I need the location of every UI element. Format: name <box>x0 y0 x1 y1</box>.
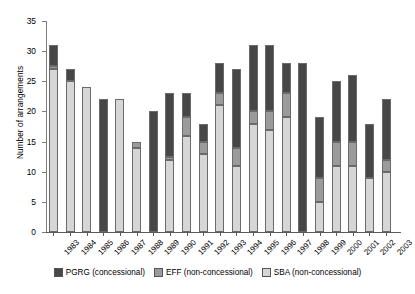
bar-segment-pgrg <box>49 45 58 66</box>
y-tick: 0 <box>42 232 46 233</box>
bar-segment-sba <box>165 160 174 232</box>
bar-segment-eff <box>182 117 191 135</box>
bar-segment-pgrg <box>66 69 75 81</box>
bar-segment-eff <box>215 93 224 105</box>
bar-segment-eff <box>232 148 241 166</box>
y-axis-title: Number of arrangements <box>16 38 25 188</box>
bar-segment-eff <box>249 111 258 123</box>
legend-item-pgrg[interactable]: PGRG (concessional) <box>54 268 145 277</box>
legend-swatch-eff <box>154 268 163 277</box>
bar-1988[interactable] <box>132 142 141 232</box>
bar-1991[interactable] <box>182 93 191 232</box>
x-tick <box>153 232 154 236</box>
bar-2001[interactable] <box>348 75 357 232</box>
bar-segment-sba <box>332 166 341 232</box>
bar-segment-sba <box>232 166 241 232</box>
legend-item-sba[interactable]: SBA (non-concessional) <box>262 268 361 277</box>
bar-segment-sba <box>115 99 124 232</box>
bar-1993[interactable] <box>215 63 224 232</box>
bar-segment-sba <box>315 202 324 232</box>
x-axis-line <box>46 232 401 233</box>
bar-1990[interactable] <box>165 93 174 232</box>
bar-1994[interactable] <box>232 69 241 232</box>
bar-segment-sba <box>215 105 224 232</box>
x-tick <box>187 232 188 236</box>
legend-swatch-pgrg <box>54 268 63 277</box>
legend-item-eff[interactable]: EFF (non-concessional) <box>154 268 253 277</box>
bar-1995[interactable] <box>249 45 258 232</box>
bar-segment-pgrg <box>282 63 291 93</box>
bar-1999[interactable] <box>315 117 324 232</box>
bar-segment-sba <box>49 69 58 232</box>
bar-segment-sba <box>265 130 274 232</box>
x-tick-label-1995: 1995 <box>262 238 281 257</box>
x-tick-label-2000: 2000 <box>345 238 364 257</box>
legend-label-pgrg: PGRG (concessional) <box>66 268 145 277</box>
bar-1983[interactable] <box>49 45 58 232</box>
bar-1985[interactable] <box>82 87 91 232</box>
y-tick: 5 <box>42 202 46 203</box>
bar-1989[interactable] <box>149 111 158 232</box>
x-tick <box>386 232 387 236</box>
bar-1996[interactable] <box>265 45 274 232</box>
x-tick-label-1989: 1989 <box>162 238 181 257</box>
bar-1984[interactable] <box>66 69 75 232</box>
y-tick-label: 20 <box>27 107 36 115</box>
y-tick: 10 <box>42 172 46 173</box>
legend-label-sba: SBA (non-concessional) <box>274 268 361 277</box>
y-tick-label: 15 <box>27 138 36 146</box>
bar-1998[interactable] <box>298 63 307 232</box>
x-tick-label-1985: 1985 <box>96 238 115 257</box>
bar-1992[interactable] <box>199 124 208 232</box>
y-tick-label: 30 <box>27 47 36 55</box>
x-tick-label-1999: 1999 <box>329 238 348 257</box>
bar-segment-sba <box>382 172 391 232</box>
y-tick: 20 <box>42 111 46 112</box>
bar-segment-eff <box>265 111 274 129</box>
bar-1986[interactable] <box>99 99 108 232</box>
bar-1997[interactable] <box>282 63 291 232</box>
bar-segment-sba <box>199 154 208 232</box>
y-tick-label: 0 <box>31 228 36 236</box>
x-tick <box>320 232 321 236</box>
bar-segment-pgrg <box>382 99 391 159</box>
x-tick-label-1994: 1994 <box>246 238 265 257</box>
bar-segment-pgrg <box>215 63 224 93</box>
bar-segment-sba <box>348 166 357 232</box>
x-tick <box>120 232 121 236</box>
bar-segment-eff <box>199 142 208 154</box>
x-tick-label-1984: 1984 <box>79 238 98 257</box>
x-tick <box>270 232 271 236</box>
bar-segment-pgrg <box>232 69 241 147</box>
chart-root: Number of arrangements 05101520253035 19… <box>0 0 415 294</box>
bar-segment-sba <box>182 136 191 232</box>
x-tick-label-2001: 2001 <box>362 238 381 257</box>
x-tick-label-1991: 1991 <box>196 238 215 257</box>
bar-segment-eff <box>348 142 357 166</box>
bar-segment-pgrg <box>332 81 341 141</box>
bar-segment-sba <box>132 148 141 232</box>
bar-segment-pgrg <box>348 75 357 141</box>
x-tick <box>87 232 88 236</box>
y-tick-label: 10 <box>27 168 36 176</box>
x-tick <box>336 232 337 236</box>
x-tick-label-2003: 2003 <box>395 238 414 257</box>
bar-segment-sba <box>66 81 75 232</box>
bar-2002[interactable] <box>365 124 374 233</box>
bar-segment-pgrg <box>149 111 158 232</box>
x-tick-label-1983: 1983 <box>63 238 82 257</box>
bar-segment-pgrg <box>99 99 108 232</box>
chart-legend: PGRG (concessional)EFF (non-concessional… <box>0 268 415 277</box>
bar-1987[interactable] <box>115 99 124 232</box>
bar-segment-eff <box>282 93 291 117</box>
bar-segment-pgrg <box>265 45 274 111</box>
plot-area: 05101520253035 <box>46 21 401 232</box>
bar-2003[interactable] <box>382 99 391 232</box>
bar-2000[interactable] <box>332 81 341 232</box>
bar-segment-pgrg <box>199 124 208 142</box>
x-tick-label-1988: 1988 <box>146 238 165 257</box>
y-tick-label: 35 <box>27 17 36 25</box>
x-tick <box>137 232 138 236</box>
y-tick: 30 <box>42 51 46 52</box>
bar-segment-pgrg <box>365 124 374 178</box>
